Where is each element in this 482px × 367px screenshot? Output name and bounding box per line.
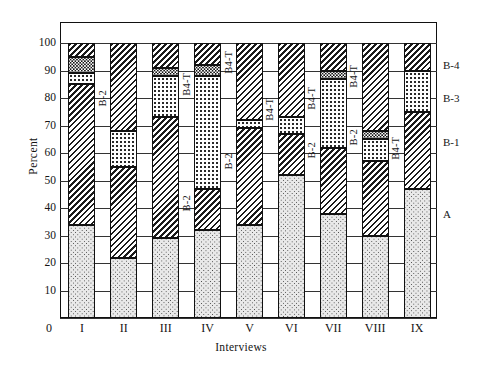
- bar-segment-V-B-1[interactable]: [237, 128, 262, 224]
- bar-segment-VIII-B-2[interactable]: [363, 139, 388, 161]
- bar-V[interactable]: [236, 43, 263, 318]
- bar-segment-VIII-B-3[interactable]: [363, 131, 388, 139]
- bar-segment-VIII-A[interactable]: [363, 236, 388, 319]
- y-tick-label-20: 20: [26, 257, 56, 269]
- bar-segment-III-B-1[interactable]: [153, 117, 178, 238]
- bar-segment-V-B-2[interactable]: [237, 120, 262, 128]
- legend-label-b-3: B-3: [443, 93, 460, 104]
- bar-segment-IX-A[interactable]: [405, 189, 430, 318]
- x-tick-label-IV: IV: [188, 322, 228, 334]
- y-tick-label-10: 10: [26, 285, 56, 297]
- bar-segment-VI-B-2[interactable]: [279, 117, 304, 134]
- bar-segment-VIII-B-4[interactable]: [363, 43, 388, 131]
- bar-IV[interactable]: [194, 43, 221, 318]
- bar-segment-IX-B-1[interactable]: [405, 112, 430, 189]
- bar-segment-I-B-3[interactable]: [69, 57, 94, 74]
- annotation-b-2-7: B-2: [307, 131, 318, 171]
- bar-segment-VIII-B-1[interactable]: [363, 161, 388, 235]
- x-tick-label-VII: VII: [313, 322, 353, 334]
- bar-I[interactable]: [68, 43, 95, 318]
- annotation-b4-t-1: B4-T: [181, 65, 192, 105]
- annotation-b4-t-4: B4-T: [265, 89, 276, 129]
- bar-segment-VII-A[interactable]: [321, 214, 346, 319]
- bar-segment-IV-B-1[interactable]: [195, 189, 220, 230]
- legend-label-a: A: [443, 209, 451, 220]
- x-tick-label-VI: VI: [271, 322, 311, 334]
- bar-segment-VI-B-1[interactable]: [279, 134, 304, 175]
- bar-segment-IX-B-2[interactable]: [405, 71, 430, 112]
- x-tick-label-V: V: [230, 322, 270, 334]
- gridline-0: [60, 318, 437, 319]
- x-tick-label-I: I: [62, 322, 102, 334]
- bar-segment-III-B-2[interactable]: [153, 76, 178, 117]
- legend-label-b-1: B-1: [443, 137, 460, 148]
- x-tick-label-VIII: VIII: [355, 322, 395, 334]
- y-tick-label-30: 30: [26, 230, 56, 242]
- y-tick-label-90: 90: [26, 65, 56, 77]
- bar-segment-II-B-4[interactable]: [111, 43, 136, 131]
- bar-segment-IV-A[interactable]: [195, 230, 220, 318]
- bar-segment-I-B-1[interactable]: [69, 84, 94, 224]
- bar-segment-VII-B-2[interactable]: [321, 79, 346, 148]
- bar-segment-I-B-4[interactable]: [69, 43, 94, 57]
- bar-segment-III-A[interactable]: [153, 238, 178, 318]
- bar-segment-V-B-4[interactable]: [237, 43, 262, 120]
- x-tick-label-II: II: [104, 322, 144, 334]
- bar-segment-VI-A[interactable]: [279, 175, 304, 318]
- bar-IX[interactable]: [404, 43, 431, 318]
- bar-segment-IV-B-2[interactable]: [195, 76, 220, 189]
- bar-segment-VI-B-4[interactable]: [279, 43, 304, 117]
- annotation-b-2-3: B-2: [181, 183, 192, 223]
- bar-segment-IV-B-3[interactable]: [195, 65, 220, 76]
- annotation-b4-t-6: B4-T: [307, 78, 318, 118]
- bar-segment-VII-B-4[interactable]: [321, 43, 346, 71]
- bar-segment-II-B-2[interactable]: [111, 131, 136, 167]
- bar-segment-VII-B-1[interactable]: [321, 148, 346, 214]
- bar-VI[interactable]: [278, 43, 305, 318]
- bar-segment-II-B-1[interactable]: [111, 167, 136, 258]
- bar-VII[interactable]: [320, 43, 347, 318]
- annotation-b4-t-10: B4-T: [391, 128, 402, 168]
- y-tick-label-80: 80: [26, 92, 56, 104]
- y-tick-label-40: 40: [26, 202, 56, 214]
- legend-label-b-4: B-4: [443, 60, 460, 71]
- bar-segment-IX-B-4[interactable]: [405, 43, 430, 71]
- x-axis-zero-tick: 0: [32, 322, 52, 334]
- bar-segment-I-B-2[interactable]: [69, 73, 94, 84]
- annotation-b-2-9: B-2: [349, 117, 360, 157]
- annotation-b-2-5: B-2: [223, 142, 234, 182]
- bar-segment-VII-B-3[interactable]: [321, 71, 346, 79]
- bar-segment-II-A[interactable]: [111, 258, 136, 319]
- x-tick-label-IX: IX: [397, 322, 437, 334]
- bar-II[interactable]: [110, 43, 137, 318]
- bar-segment-III-B-4[interactable]: [153, 43, 178, 68]
- x-axis-label: Interviews: [0, 341, 482, 353]
- y-tick-label-100: 100: [26, 37, 56, 49]
- bar-III[interactable]: [152, 43, 179, 318]
- annotation-b4-t-8: B4-T: [349, 56, 360, 96]
- bar-segment-I-A[interactable]: [69, 225, 94, 319]
- bar-segment-III-B-3[interactable]: [153, 68, 178, 76]
- y-axis-label: Percent: [27, 111, 39, 201]
- chart-figure: 102030405060708090100 Percent B-2B4-TB4-…: [0, 0, 482, 367]
- bar-segment-V-A[interactable]: [237, 225, 262, 319]
- annotation-b4-t-2: B4-T: [223, 43, 234, 83]
- annotation-b-2-0: B-2: [98, 78, 109, 118]
- bar-segment-IV-B-4[interactable]: [195, 43, 220, 65]
- bar-VIII[interactable]: [362, 43, 389, 318]
- x-tick-label-III: III: [146, 322, 186, 334]
